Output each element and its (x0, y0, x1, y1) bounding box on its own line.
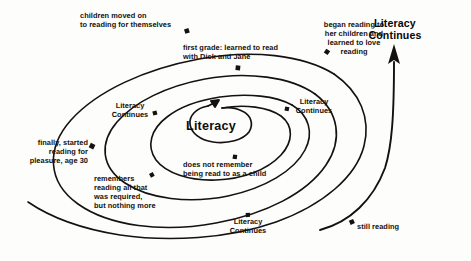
annotation-literacy-continues-left: Literacy Continues (104, 101, 156, 119)
core-label-literacy: Literacy (186, 119, 236, 133)
annotation-literacy-continues-bottom: Literacy Continues (219, 217, 277, 235)
inner-arrowhead-barb (211, 100, 219, 107)
annotation-does-not-remember: does not remember being read to as a chi… (183, 160, 266, 178)
annotation-children-moved-on: children moved on to reading for themsel… (80, 11, 171, 29)
annotation-still-reading: still reading (357, 222, 399, 231)
annotation-first-grade: first grade: learned to read with Dick a… (183, 43, 278, 61)
annotation-finally-started-reading: finally, started reading for pleasure, a… (3, 138, 88, 165)
annotation-literacy-continues-right: Literacy Continues (288, 97, 340, 115)
annotation-remembers-reading: remembers reading all that was required,… (94, 174, 156, 210)
outcome-label-literacy-continues: Literacy Continues (356, 17, 434, 42)
outcome-arrow-stem (320, 62, 394, 230)
spiral-diagram-canvas: children moved on to reading for themsel… (0, 0, 471, 261)
